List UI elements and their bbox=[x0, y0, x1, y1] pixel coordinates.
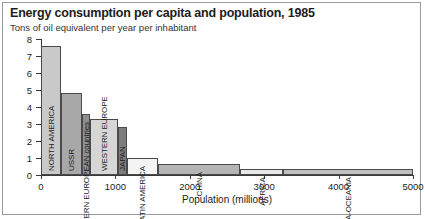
bar-segment: WESTERN EUROPE bbox=[90, 119, 118, 175]
x-tick-label: 0 bbox=[38, 181, 43, 192]
bar-segment: LATIN AMERICA bbox=[127, 158, 158, 175]
bar-label: USSR bbox=[67, 149, 76, 171]
y-tick-label: 3 bbox=[10, 119, 32, 130]
bar-segment: ASIA-OCEANIA bbox=[283, 169, 413, 175]
bar-segment: JAPAN bbox=[118, 127, 127, 175]
bar-segment: USSR bbox=[61, 93, 82, 175]
x-tick-mark bbox=[190, 175, 191, 179]
y-tick-label: 0 bbox=[10, 170, 32, 181]
y-tick-label: 1 bbox=[10, 153, 32, 164]
x-tick-mark bbox=[339, 175, 340, 179]
y-tick-label: 8 bbox=[10, 34, 32, 45]
y-tick-label: 6 bbox=[10, 68, 32, 79]
x-tick-mark bbox=[41, 175, 42, 179]
x-axis-line bbox=[41, 175, 413, 176]
x-tick-label: 5000 bbox=[402, 181, 423, 192]
x-axis-title: Population (millions) bbox=[41, 194, 413, 205]
chart-subtitle: Tons of oil equivalent per year per inha… bbox=[10, 22, 196, 33]
bar-label: JAPAN bbox=[118, 146, 127, 171]
x-tick-mark bbox=[115, 175, 116, 179]
y-tick-label: 7 bbox=[10, 51, 32, 62]
bar-series: NORTH AMERICAUSSROther EASTERN EUROPEAN … bbox=[41, 36, 413, 175]
bar-label: NORTH AMERICA bbox=[46, 106, 55, 171]
bar-segment: Other EASTERN EUROPEAN countries bbox=[82, 114, 90, 175]
bar-segment: AFRICA bbox=[240, 169, 282, 175]
y-tick-label: 2 bbox=[10, 136, 32, 147]
page-title: Energy consumption per capita and popula… bbox=[10, 6, 315, 20]
y-tick-label: 5 bbox=[10, 85, 32, 96]
bar-label: LATIN AMERICA bbox=[138, 166, 147, 219]
bar-segment: CHINA bbox=[158, 164, 241, 175]
x-tick-label: 1000 bbox=[105, 181, 126, 192]
bar-segment: NORTH AMERICA bbox=[41, 46, 61, 175]
x-tick-mark bbox=[413, 175, 414, 179]
y-tick-label: 4 bbox=[10, 102, 32, 113]
bar-label: WESTERN EUROPE bbox=[99, 96, 108, 171]
plot-area: 012345678 010002000300040005000 NORTH AM… bbox=[10, 36, 414, 212]
chart-page: Energy consumption per capita and popula… bbox=[0, 0, 425, 219]
